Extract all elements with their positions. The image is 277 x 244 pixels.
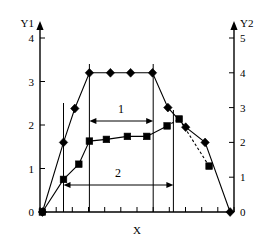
y1-tick-label-2: 2 [29, 119, 35, 131]
diamond-marker-2 [71, 104, 79, 113]
y2-tick-label-1: 1 [240, 171, 246, 183]
square-marker-4 [103, 136, 110, 143]
y1-tick-label-1: 1 [29, 163, 35, 175]
square-marker-9 [206, 163, 213, 170]
y1-tick-label-0: 0 [29, 206, 35, 218]
x-axis: X [40, 207, 234, 236]
diamond-marker-4 [106, 68, 114, 77]
y1-tick-label-4: 4 [29, 32, 35, 44]
square-marker-8 [176, 116, 183, 123]
diamond-series-group [38, 68, 234, 216]
x-axis-title: X [133, 224, 141, 236]
y2-tick-label-0: 0 [240, 206, 246, 218]
square-marker-5 [124, 133, 131, 140]
diamond-marker-1 [59, 138, 67, 147]
y2-tick-label-3: 3 [240, 102, 246, 114]
annotation-2-label: 2 [115, 166, 121, 180]
y1-axis: 0 1 2 3 4 Y1 [21, 17, 45, 218]
y1-axis-arrowhead [36, 21, 43, 30]
square-marker-1 [60, 176, 67, 183]
square-marker-2 [76, 161, 83, 168]
diamond-marker-10 [226, 208, 234, 217]
square-marker-6 [144, 133, 151, 140]
diamond-marker-6 [148, 68, 156, 77]
chart-container: 0 1 2 3 4 Y1 0 1 2 3 4 5 Y2 [0, 0, 277, 244]
y2-axis: 0 1 2 3 4 5 Y2 [229, 17, 253, 218]
y2-tick-label-5: 5 [240, 32, 246, 44]
y2-tick-label-2: 2 [240, 136, 246, 148]
annotation-1: 1 [89, 102, 153, 124]
y1-tick-label-3: 3 [29, 76, 35, 88]
square-marker-0 [39, 209, 46, 216]
y2-axis-title: Y2 [240, 17, 253, 29]
annotation-1-arrow-left [89, 118, 96, 124]
y2-tick-label-4: 4 [240, 67, 246, 79]
y1-axis-title: Y1 [21, 17, 34, 29]
annotation-1-arrow-right [146, 118, 153, 124]
diamond-marker-3 [85, 68, 93, 77]
diamond-marker-9 [201, 138, 209, 147]
chart-plot: 0 1 2 3 4 Y1 0 1 2 3 4 5 Y2 [0, 0, 277, 244]
square-series-group [39, 123, 170, 216]
y2-axis-arrowhead [230, 21, 237, 30]
square-marker-3 [86, 138, 93, 145]
annotation-1-label: 1 [118, 102, 124, 116]
annotation-2-arrow-right [166, 182, 173, 188]
diamond-marker-5 [126, 68, 134, 77]
annotation-2: 2 [64, 166, 174, 188]
